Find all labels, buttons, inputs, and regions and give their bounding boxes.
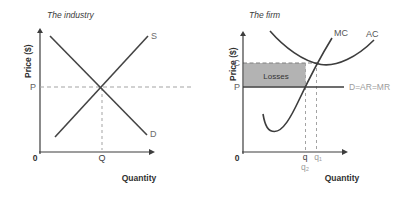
industry-origin-label: 0 bbox=[33, 153, 38, 163]
industry-price-label: P bbox=[30, 82, 36, 92]
industry-x-axis-label: Quantity bbox=[122, 173, 157, 183]
firm-diagram: The firm Price ($) C P 0 Losses D=AR=MR … bbox=[228, 10, 390, 183]
industry-y-axis-label: Price ($) bbox=[23, 44, 33, 78]
supply-curve-label: S bbox=[151, 31, 157, 41]
firm-cost-label: C bbox=[234, 58, 241, 68]
demand-curve-label: D bbox=[150, 129, 157, 139]
firm-q1-tick-label: q₁ bbox=[314, 152, 322, 162]
industry-title: The industry bbox=[47, 10, 95, 20]
firm-x-axis-label: Quantity bbox=[325, 173, 360, 183]
diagrams-svg: The industry Price ($) P Q 0 S D Quantit… bbox=[0, 0, 408, 200]
demand-curve bbox=[50, 36, 147, 135]
firm-origin-label: 0 bbox=[235, 153, 240, 163]
firm-q2-tick-label: q₂ bbox=[301, 162, 309, 172]
firm-title: The firm bbox=[249, 10, 280, 20]
firm-price-label: P bbox=[234, 82, 240, 92]
economics-diagrams: The industry Price ($) P Q 0 S D Quantit… bbox=[0, 0, 408, 200]
ac-curve bbox=[270, 31, 374, 65]
mc-curve-label: MC bbox=[334, 28, 348, 38]
losses-label: Losses bbox=[263, 72, 288, 81]
ac-curve-label: AC bbox=[366, 29, 379, 39]
firm-demand-line-label: D=AR=MR bbox=[349, 82, 390, 92]
industry-diagram: The industry Price ($) P Q 0 S D Quantit… bbox=[23, 10, 192, 183]
industry-quantity-tick-label: Q bbox=[98, 153, 105, 163]
firm-q-tick-label: q bbox=[303, 152, 308, 162]
